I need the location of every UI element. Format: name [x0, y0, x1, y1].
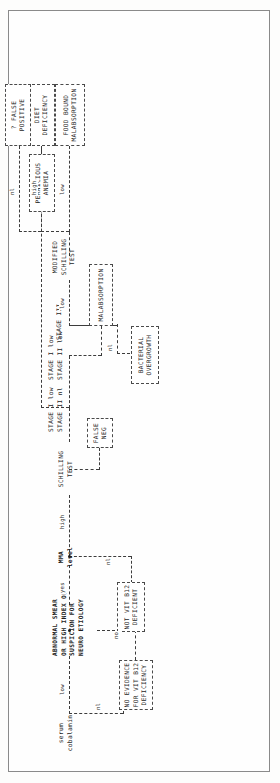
node-not-vit-b12-deficient: NOT VIT B12 DEFICIENT: [117, 582, 145, 632]
edge-mod-nl-h: [19, 146, 20, 232]
node-schilling-test: SCHILLING TEST: [57, 444, 74, 494]
edge-label-mma-nl: nl: [105, 556, 112, 565]
edge-label-cobalamin-nl: nl: [95, 701, 102, 710]
stage-a-1: STAGE I low: [47, 384, 56, 432]
edge-label-smear-yes: yes: [59, 581, 66, 594]
edge-label-mod-low: low: [59, 183, 66, 196]
edge-schilling-trunk: [69, 408, 70, 442]
node-mma-level: MMA level: [57, 542, 74, 572]
food-bound-line-1: MALABSORPTION: [70, 88, 79, 141]
no-evidence-line-0: NO EVIDENCE: [123, 662, 132, 707]
mma-level-line-0: MMA: [57, 542, 66, 572]
node-food-bound-malabsorption: FOOD BOUND MALABSORPTION: [55, 84, 85, 146]
false-neg-line-1: NEG: [100, 426, 109, 438]
abnormal-smear-line-3: NEURO ETIOLOGY: [77, 602, 86, 656]
node-false-positive: ? FALSE POSITIVE: [5, 84, 31, 146]
not-vit-b12-line-1: DEFICIENT: [131, 588, 140, 625]
edge-stage3-nl: [117, 324, 118, 354]
edge-label-smear-no: no: [113, 630, 120, 639]
node-malabsorption: MALABSORPTION: [89, 264, 113, 326]
false-positive-line-0: ? FALSE: [10, 100, 19, 129]
edge-mod-nl-v: [19, 231, 41, 232]
bacterial-overgrowth-line-1: OVERGROWTH: [145, 334, 154, 375]
edge-stage-b-v: [69, 355, 101, 356]
serum-cobalamin-line-1: cobalamin: [66, 712, 75, 754]
edge-label-mod-nl: nl: [9, 186, 16, 195]
node-false-neg: FALSE NEG: [87, 418, 113, 448]
abnormal-smear-line-1: OR HIGH INDEX OF: [60, 602, 69, 656]
edge-mod-low: [69, 146, 70, 232]
serum-cobalamin-line-0: serum: [57, 712, 66, 754]
no-evidence-line-2: DEFICIENCY: [140, 664, 149, 705]
node-no-evidence: NO EVIDENCE FOR VIT B12 DEFICIENCY: [119, 660, 153, 710]
false-neg-line-0: FALSE: [92, 422, 101, 442]
node-bacterial-overgrowth: BACTERIAL OVERGROWTH: [131, 326, 159, 384]
not-vit-b12-line-0: NOT VIT B12: [123, 584, 132, 629]
edge-mma-nl-h: [131, 556, 132, 583]
food-bound-line-0: FOOD BOUND: [62, 94, 71, 135]
edge-stage3-low: [69, 280, 70, 326]
edge-label-stage3-nl: nl: [107, 342, 114, 351]
stage-a-2: STAGE II nl: [56, 384, 65, 432]
edge-cobalamin-low: [69, 656, 70, 714]
stage-cluster-a: STAGE I low STAGE II nl: [47, 384, 64, 432]
abnormal-smear-line-0: ABNORMAL SMEAR: [51, 602, 60, 656]
edge-schilling-falseneg-h: [99, 448, 100, 470]
edge-stage-b-h2: [101, 326, 102, 356]
modified-schilling-line-2: TEST: [68, 230, 77, 284]
node-modified-schilling-test: MODIFIED SCHILLING TEST: [51, 230, 77, 284]
edge-mma-nl: [69, 556, 131, 557]
abnormal-smear-line-2: SUSPICION FOR: [68, 602, 77, 656]
edge-smear-no-h: [135, 630, 136, 660]
mma-level-line-1: level: [66, 542, 75, 572]
modified-schilling-line-0: MODIFIED: [51, 230, 60, 284]
edge-stage-b-h: [69, 356, 70, 408]
schilling-test-line-1: TEST: [66, 444, 75, 494]
flowchart-canvas: serum cobalamin ABNORMAL SMEAR OR HIGH I…: [11, 12, 269, 772]
edge-label-stage3-low: low: [59, 297, 66, 310]
diet-deficiency-line-0: DIET: [33, 106, 42, 122]
pernicious-anemia-line-1: ANEMIA: [42, 170, 51, 194]
modified-schilling-line-1: SCHILLING: [60, 230, 69, 284]
false-positive-line-1: POSITIVE: [18, 98, 27, 131]
diet-deficiency-line-1: DEFICIENCY: [41, 94, 50, 135]
edge-label-mod-high: high: [31, 179, 38, 195]
edge-cobalamin-nl: [69, 713, 123, 714]
node-diet-deficiency: DIET DEFICIENCY: [27, 84, 55, 146]
edge-label-mma-high: high: [59, 513, 66, 529]
malabsorption-line-0: MALABSORPTION: [97, 268, 106, 321]
node-abnormal-smear: ABNORMAL SMEAR OR HIGH INDEX OF SUSPICIO…: [51, 602, 85, 656]
no-evidence-line-1: FOR VIT B12: [132, 662, 141, 707]
node-serum-cobalamin: serum cobalamin: [57, 712, 74, 754]
page-sheet: serum cobalamin ABNORMAL SMEAR OR HIGH I…: [0, 0, 280, 783]
bacterial-overgrowth-line-0: BACTERIAL: [137, 336, 146, 373]
edge-label-cobalamin-low: low: [59, 683, 66, 696]
schilling-test-line-0: SCHILLING: [57, 444, 66, 494]
